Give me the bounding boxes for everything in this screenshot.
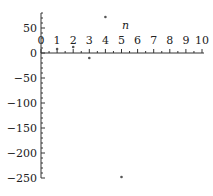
data-point: [120, 176, 123, 179]
x-tick-label: 2: [70, 34, 77, 47]
x-tick-label: 10: [195, 34, 209, 47]
x-tick-label: 6: [134, 34, 141, 47]
y-tick-label: −250: [7, 172, 37, 185]
y-tick-label: 50: [23, 22, 37, 35]
x-tick-label: 4: [102, 34, 109, 47]
y-tick-label: −100: [7, 97, 37, 110]
data-point: [104, 16, 107, 19]
y-tick-label: 0: [30, 47, 37, 60]
x-tick-label: 8: [166, 34, 173, 47]
data-point: [56, 48, 59, 51]
x-tick-label: 5: [118, 34, 125, 47]
x-tick-label: 1: [54, 34, 61, 47]
x-tick-label: 0: [38, 34, 45, 47]
axes: 012345678910500−50−100−150−200−250n: [7, 13, 209, 185]
data-point: [88, 57, 91, 60]
data-point: [72, 46, 75, 49]
scatter-plot: 012345678910500−50−100−150−200−250n: [0, 0, 213, 196]
y-tick-label: −200: [7, 147, 37, 160]
x-tick-label: 7: [150, 34, 157, 47]
x-tick-label: 3: [86, 34, 93, 47]
x-tick-label: 9: [182, 34, 189, 47]
y-tick-label: −50: [14, 72, 37, 85]
x-axis-label: n: [122, 19, 129, 32]
y-tick-label: −150: [7, 122, 37, 135]
